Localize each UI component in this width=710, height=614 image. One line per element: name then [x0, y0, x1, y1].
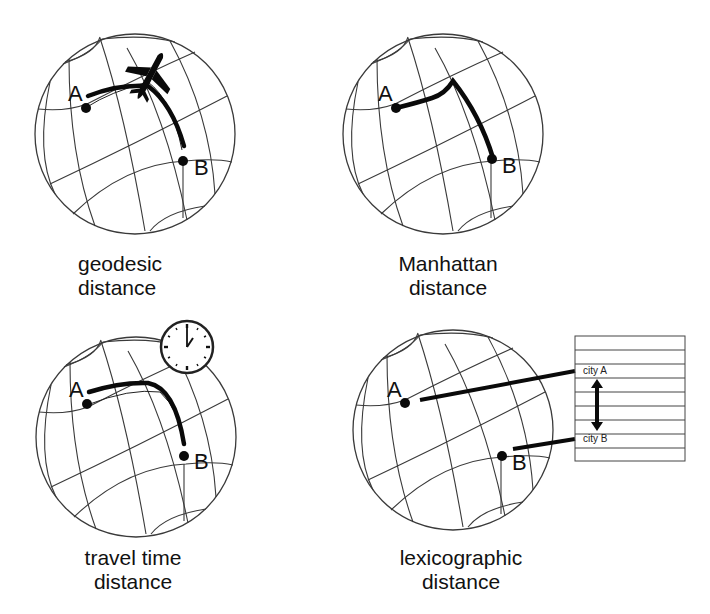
table-row-city-b: city B — [583, 433, 608, 444]
point-b-dot — [179, 451, 189, 461]
distance-types-figure: A B A B A B — [0, 0, 710, 614]
globe-travel-time — [36, 337, 236, 537]
point-a-label: A — [68, 81, 83, 106]
point-a-label: A — [378, 81, 393, 106]
point-b-label: B — [512, 450, 527, 475]
point-b-dot — [497, 451, 507, 461]
point-b-label: B — [502, 153, 517, 178]
caption-travel-time: travel time distance — [68, 546, 198, 594]
caption-lexicographic: lexicographic distance — [388, 546, 534, 594]
point-a-label: A — [69, 377, 84, 402]
globe-geodesic — [35, 34, 235, 234]
clock-icon — [161, 321, 213, 373]
caption-line2: distance — [388, 276, 508, 300]
caption-line1: geodesic — [78, 252, 162, 276]
caption-line1: Manhattan — [388, 252, 508, 276]
point-a-label: A — [387, 377, 402, 402]
caption-geodesic: geodesic distance — [78, 252, 162, 300]
point-b-dot — [487, 154, 497, 164]
point-b-dot — [178, 156, 188, 166]
globe-lexicographic — [353, 330, 553, 530]
double-arrow-icon — [591, 379, 603, 431]
caption-line2: distance — [388, 570, 534, 594]
caption-line1: travel time — [68, 546, 198, 570]
table-row-city-a: city A — [583, 365, 607, 376]
caption-manhattan: Manhattan distance — [388, 252, 508, 300]
caption-line1: lexicographic — [388, 546, 534, 570]
point-b-label: B — [194, 449, 209, 474]
caption-line2: distance — [68, 570, 198, 594]
caption-line2: distance — [78, 276, 162, 300]
point-b-label: B — [194, 155, 209, 180]
globe-manhattan — [343, 34, 543, 234]
